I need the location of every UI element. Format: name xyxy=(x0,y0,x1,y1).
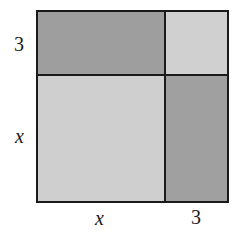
label-bottom-right: 3 xyxy=(191,207,201,227)
region-bottom-left-x-squared xyxy=(38,76,166,201)
square-diagram xyxy=(36,10,229,203)
label-bottom-left: x xyxy=(95,208,104,228)
label-left-bottom: x xyxy=(15,126,24,146)
region-bottom-right-3x xyxy=(166,76,227,201)
region-top-left-3x xyxy=(38,12,166,76)
label-left-top: 3 xyxy=(14,34,24,54)
region-top-right-9 xyxy=(166,12,227,76)
